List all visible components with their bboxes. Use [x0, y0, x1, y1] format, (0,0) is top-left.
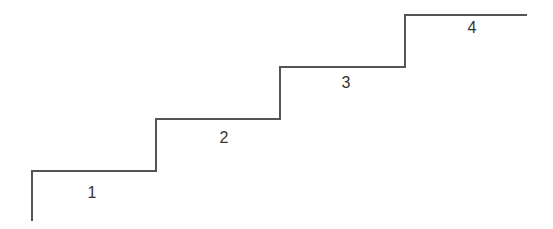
step-label-3: 3 [342, 74, 351, 91]
staircase-line [32, 15, 527, 221]
step-label-2: 2 [220, 129, 229, 146]
staircase-diagram: 1 2 3 4 [0, 0, 553, 229]
step-label-1: 1 [88, 184, 97, 201]
step-label-4: 4 [468, 19, 477, 36]
